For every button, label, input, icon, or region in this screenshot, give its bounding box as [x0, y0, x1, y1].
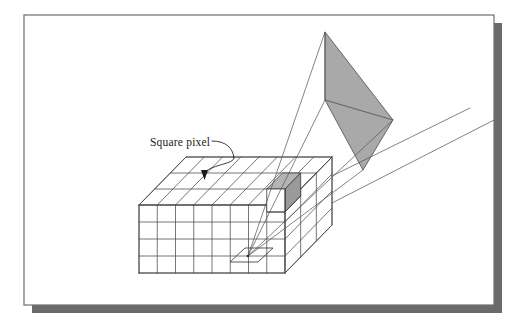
- eye-point-marker: [247, 255, 250, 258]
- square-pixel-label: Square pixel: [150, 136, 210, 149]
- square-pixel-diagram: Square pixel: [0, 0, 526, 334]
- figure-root: Square pixel: [0, 0, 526, 334]
